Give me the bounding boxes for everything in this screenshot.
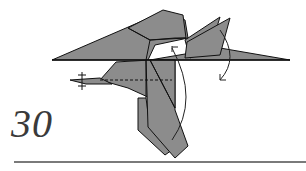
left-lower-body: [100, 60, 150, 98]
origami-step-diagram: 30: [0, 0, 306, 171]
step-divider-rule: [14, 161, 306, 163]
step-number: 30: [11, 104, 53, 144]
